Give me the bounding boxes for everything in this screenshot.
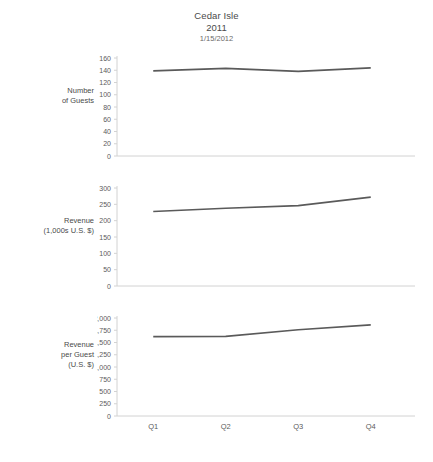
svg-text:50: 50 — [103, 266, 111, 273]
svg-text:100: 100 — [99, 91, 111, 98]
svg-text:2,000: 2,000 — [97, 315, 111, 322]
chart-panel-number-of-guests: Number of Guests 160140120100806040200 — [0, 48, 433, 168]
svg-text:500: 500 — [99, 388, 111, 395]
title-date: 1/15/2012 — [0, 33, 433, 43]
svg-text:Q3: Q3 — [293, 422, 303, 431]
chart-title-block: Cedar Isle 2011 1/15/2012 — [0, 10, 433, 43]
svg-text:150: 150 — [99, 234, 111, 241]
title-year: 2011 — [0, 22, 433, 34]
svg-text:Q1: Q1 — [148, 422, 158, 431]
svg-text:1,250: 1,250 — [97, 351, 111, 358]
svg-text:120: 120 — [99, 79, 111, 86]
svg-text:0: 0 — [107, 153, 111, 160]
svg-text:1,000: 1,000 — [97, 364, 111, 371]
page-title: Cedar Isle — [0, 10, 433, 22]
svg-text:140: 140 — [99, 67, 111, 74]
svg-text:1,750: 1,750 — [97, 327, 111, 334]
y-axis-title-line: per Guest — [8, 350, 94, 360]
line-chart-guests: 160140120100806040200 — [97, 52, 417, 162]
y-axis-title-line: (U.S. $) — [8, 360, 94, 370]
svg-text:80: 80 — [103, 104, 111, 111]
svg-text:1,500: 1,500 — [97, 339, 111, 346]
svg-text:200: 200 — [99, 217, 111, 224]
svg-text:Q2: Q2 — [221, 422, 231, 431]
svg-text:20: 20 — [103, 140, 111, 147]
svg-text:100: 100 — [99, 250, 111, 257]
svg-text:60: 60 — [103, 116, 111, 123]
svg-text:Q4: Q4 — [366, 422, 376, 431]
y-axis-title-revenue-per-guest: Revenue per Guest (U.S. $) — [8, 340, 94, 370]
x-axis-category-labels: Q1Q2Q3Q4 — [97, 420, 417, 440]
x-axis-svg: Q1Q2Q3Q4 — [97, 420, 417, 440]
plot-area-revenue-per-guest: 2,0001,7501,5001,2501,0007505002500 — [97, 312, 417, 422]
line-chart-revenue: 300250200150100500 — [97, 182, 417, 292]
plot-area-guests: 160140120100806040200 — [97, 52, 417, 162]
y-axis-title-guests: Number of Guests — [8, 86, 94, 106]
y-axis-title-line: Revenue — [8, 340, 94, 350]
svg-text:40: 40 — [103, 128, 111, 135]
svg-text:300: 300 — [99, 185, 111, 192]
y-axis-title-line: (1,000s U.S. $) — [8, 226, 94, 236]
y-axis-title-line: Revenue — [8, 216, 94, 226]
y-axis-title-line: Number — [8, 86, 94, 96]
chart-panel-revenue: Revenue (1,000s U.S. $) 3002502001501005… — [0, 178, 433, 298]
plot-area-revenue: 300250200150100500 — [97, 182, 417, 292]
y-axis-title-revenue: Revenue (1,000s U.S. $) — [8, 216, 94, 236]
y-axis-title-line: of Guests — [8, 96, 94, 106]
chart-panel-revenue-per-guest: Revenue per Guest (U.S. $) 2,0001,7501,5… — [0, 308, 433, 428]
line-chart-revenue-per-guest: 2,0001,7501,5001,2501,0007505002500 — [97, 312, 417, 422]
svg-text:0: 0 — [107, 283, 111, 290]
svg-text:250: 250 — [99, 201, 111, 208]
svg-text:750: 750 — [99, 376, 111, 383]
svg-text:0: 0 — [107, 413, 111, 420]
svg-text:160: 160 — [99, 55, 111, 62]
svg-text:250: 250 — [99, 400, 111, 407]
